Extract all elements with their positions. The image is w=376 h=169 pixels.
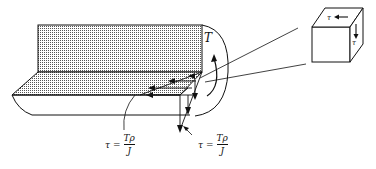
stress-element-cube [312,8,363,62]
formula-left-eq: = [113,140,121,150]
formula-left-lhs: τ [105,140,110,150]
fraction-bar [217,144,228,145]
formula-right-numerator: Tρ [217,133,228,143]
element-top-shear-label: τ [327,15,331,22]
formula-left: τ = Tρ J [105,133,135,156]
formula-right-denominator: J [217,146,228,156]
element-side-shear-label: τ [352,40,356,47]
fraction-bar [124,144,135,145]
horizontal-section-plane [12,72,202,95]
shaft-body [12,95,190,115]
formula-left-numerator: Tρ [124,133,135,143]
formula-right-eq: = [206,140,214,150]
formula-right-lhs: τ [198,140,203,150]
torque-label: T [204,31,212,45]
formula-left-denominator: J [124,146,135,156]
torque-arrow-icon [207,54,217,96]
element-leader-lines [200,28,306,82]
formula-right: τ = Tρ J [198,133,228,156]
torsion-shaft-diagram [0,0,376,169]
vertical-section-plane [38,25,202,72]
